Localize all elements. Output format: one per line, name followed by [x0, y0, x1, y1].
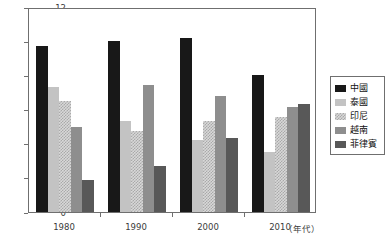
x-axis-tick-label: 2000 [197, 222, 219, 232]
bar [59, 101, 71, 212]
legend-swatch-icon [335, 113, 346, 120]
bar [287, 107, 299, 212]
legend-swatch-icon [335, 99, 346, 106]
x-axis-unit-label: （年代） [284, 222, 320, 234]
bar [180, 38, 192, 212]
bar [264, 152, 276, 212]
bar [108, 41, 120, 212]
bar [226, 138, 238, 212]
legend-item-label: 越南 [350, 126, 368, 135]
x-axis-tick-label: 1990 [125, 222, 147, 232]
bar [120, 121, 132, 212]
bar [298, 104, 310, 212]
legend-item-label: 中國 [350, 84, 368, 93]
plot-area [28, 8, 316, 213]
legend-item: 泰國 [335, 95, 381, 109]
legend-swatch-icon [335, 85, 346, 92]
legend-item-label: 菲律賓 [350, 140, 377, 149]
bar [192, 140, 204, 212]
bar [48, 87, 60, 212]
x-axis-tick-mark [172, 213, 173, 217]
legend-swatch-icon [335, 127, 346, 134]
bar [71, 127, 83, 212]
legend-item-label: 泰國 [350, 98, 368, 107]
bar-chart: 024681012 1980199020002010 （年代） 中國泰國印尼越南… [0, 0, 391, 250]
legend: 中國泰國印尼越南菲律賓 [330, 76, 385, 155]
x-axis-tick-mark [100, 213, 101, 217]
bar [275, 117, 287, 212]
legend-swatch-icon [335, 141, 346, 148]
bar [203, 121, 215, 212]
x-axis-tick-mark [244, 213, 245, 217]
bar [36, 46, 48, 212]
bar [143, 85, 155, 212]
legend-item: 中國 [335, 81, 381, 95]
legend-item: 菲律賓 [335, 137, 381, 151]
bar [252, 75, 264, 212]
legend-item: 越南 [335, 123, 381, 137]
bar [131, 131, 143, 212]
legend-item: 印尼 [335, 109, 381, 123]
bars-layer [29, 9, 315, 212]
bar [215, 96, 227, 212]
bar [154, 166, 166, 212]
x-axis-tick-label: 1980 [53, 222, 75, 232]
bar [82, 180, 94, 212]
legend-item-label: 印尼 [350, 112, 368, 121]
